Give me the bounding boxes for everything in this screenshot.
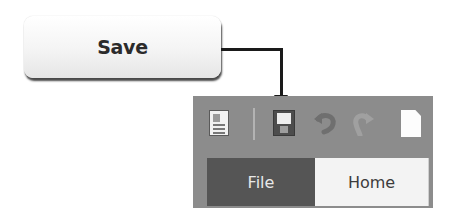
ribbon-tabs: File Home <box>207 158 429 206</box>
save-callout: Save <box>24 16 221 78</box>
redo-icon[interactable] <box>349 110 375 136</box>
tab-file[interactable]: File <box>207 158 315 206</box>
toolbar-separator <box>253 108 255 140</box>
callout-label: Save <box>97 36 148 58</box>
save-icon[interactable] <box>273 110 295 136</box>
new-document-icon[interactable] <box>401 110 421 137</box>
connector-line-horizontal <box>221 48 283 51</box>
quick-access-toolbar <box>193 106 433 142</box>
undo-icon[interactable] <box>313 110 339 136</box>
connector-line-vertical <box>280 48 283 98</box>
office-ribbon-panel: File Home <box>193 96 433 208</box>
app-document-icon[interactable] <box>209 110 229 136</box>
tab-home[interactable]: Home <box>315 158 429 206</box>
